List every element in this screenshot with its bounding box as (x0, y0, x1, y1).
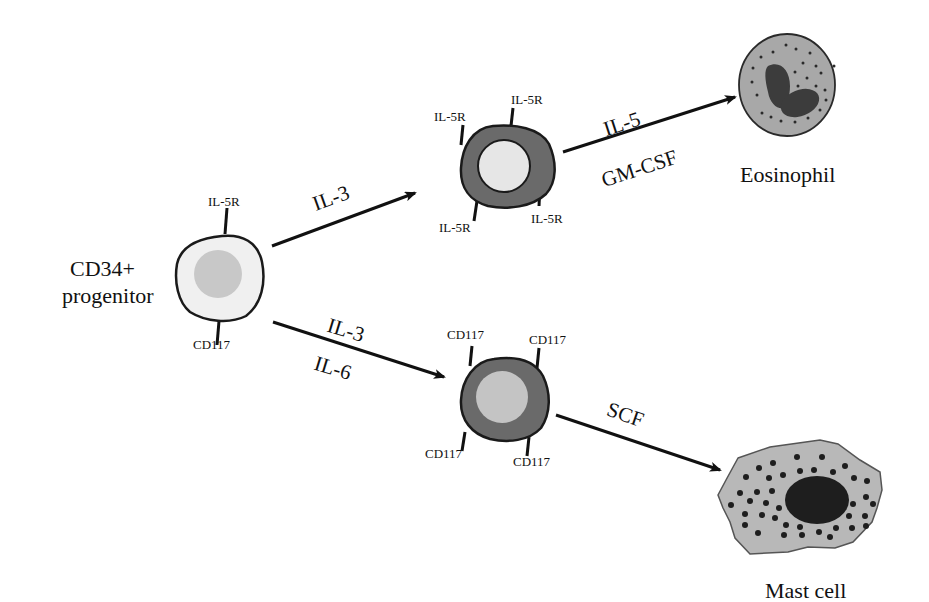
eos-precursor-receptor-1: IL-5R (434, 110, 466, 123)
progenitor-label-line2: progenitor (62, 285, 154, 307)
mast-precursor-receptor-1: CD117 (447, 328, 484, 341)
mast-precursor-receptor-4: CD117 (513, 455, 550, 468)
il5r-receptor-stub (225, 208, 227, 234)
arrow-eos-precursor-to-eosinophil (563, 97, 735, 152)
eos-precursor-cell (461, 108, 555, 221)
eosinophil-label: Eosinophil (740, 164, 835, 186)
eos-precursor-receptor-3: IL-5R (531, 212, 563, 225)
mast-precursor-cell (461, 346, 549, 456)
progenitor-receptor-bottom: CD117 (193, 338, 230, 351)
eos-precursor-receptor-4: IL-5R (439, 221, 471, 234)
mast-precursor-receptor-3: CD117 (425, 447, 462, 460)
mast-cell (718, 440, 882, 554)
mast-precursor-receptor-2: CD117 (529, 333, 566, 346)
eos-precursor-receptor-2: IL-5R (511, 93, 543, 106)
mast-cell-label: Mast cell (765, 580, 846, 602)
progenitor-receptor-top: IL-5R (208, 195, 240, 208)
eosinophil-cell (739, 34, 836, 136)
progenitor-cell (176, 208, 263, 345)
progenitor-label-line1: CD34+ (70, 258, 135, 280)
